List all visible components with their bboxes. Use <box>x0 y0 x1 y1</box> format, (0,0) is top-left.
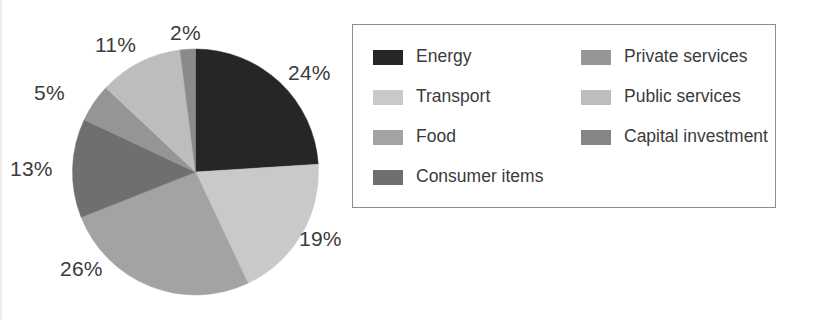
legend: EnergyTransportFoodConsumer items Privat… <box>352 24 776 208</box>
legend-item-capital-investment[interactable]: Capital investment <box>581 117 777 157</box>
legend-swatch-icon <box>581 50 611 65</box>
legend-column-right: Private servicesPublic servicesCapital i… <box>581 37 777 157</box>
legend-item-private-services[interactable]: Private services <box>581 37 777 77</box>
pie-label-food: 26% <box>60 258 103 279</box>
pie-label-private-services: 5% <box>34 82 65 103</box>
pie-label-public-services: 11% <box>95 34 136 55</box>
legend-item-label: Food <box>416 128 456 146</box>
legend-item-food[interactable]: Food <box>373 117 588 157</box>
pie-label-transport: 19% <box>299 228 342 249</box>
legend-item-energy[interactable]: Energy <box>373 37 588 77</box>
legend-swatch-icon <box>581 130 611 145</box>
pie-slice-group <box>73 49 319 295</box>
legend-item-label: Public services <box>624 88 741 106</box>
pie-label-capital-investment: 2% <box>170 22 201 43</box>
legend-item-transport[interactable]: Transport <box>373 77 588 117</box>
pie-label-energy: 24% <box>288 62 331 83</box>
pie-chart-svg <box>0 0 352 320</box>
legend-item-label: Consumer items <box>416 168 543 186</box>
pie-label-consumer-items: 13% <box>10 158 53 179</box>
legend-item-label: Private services <box>624 48 748 66</box>
legend-item-label: Capital investment <box>624 128 768 146</box>
legend-swatch-icon <box>373 90 403 105</box>
legend-item-label: Energy <box>416 48 471 66</box>
legend-swatch-icon <box>373 50 403 65</box>
legend-swatch-icon <box>581 90 611 105</box>
legend-column-left: EnergyTransportFoodConsumer items <box>373 37 588 197</box>
legend-swatch-icon <box>373 170 403 185</box>
legend-item-label: Transport <box>416 88 490 106</box>
legend-item-public-services[interactable]: Public services <box>581 77 777 117</box>
legend-swatch-icon <box>373 130 403 145</box>
pie-chart-area: 24% 19% 26% 13% 5% 11% 2% <box>0 0 352 320</box>
legend-item-consumer-items[interactable]: Consumer items <box>373 157 588 197</box>
